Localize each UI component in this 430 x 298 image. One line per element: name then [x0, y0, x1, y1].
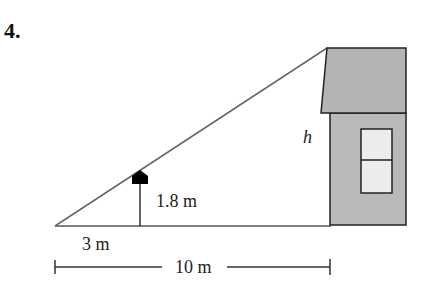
lamp-head-icon	[132, 170, 148, 184]
label-lamp-height: 1.8 m	[156, 191, 197, 211]
problem-number: 4.	[4, 18, 21, 43]
label-h: h	[303, 127, 312, 147]
house-roof	[321, 48, 406, 113]
label-total-distance: 10 m	[175, 257, 212, 277]
label-lamp-distance: 3 m	[82, 234, 110, 254]
house-window	[361, 129, 392, 193]
similar-triangles-diagram: 4. h 1.8 m 3 m 10 m	[0, 0, 430, 298]
